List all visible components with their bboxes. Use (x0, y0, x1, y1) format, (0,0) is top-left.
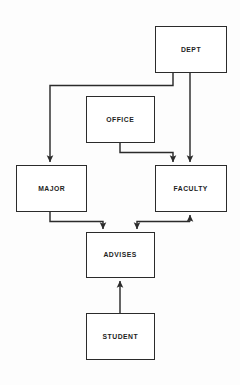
node-faculty-label: FACULTY (174, 185, 208, 192)
node-major-label: MAJOR (38, 185, 65, 192)
node-advises[interactable]: ADVISES (86, 232, 155, 278)
node-advises-label: ADVISES (104, 251, 137, 258)
node-student[interactable]: STUDENT (86, 313, 155, 360)
diagram-canvas: DEPT OFFICE MAJOR FACULTY ADVISES STUDEN… (0, 0, 240, 385)
node-dept-label: DEPT (181, 46, 201, 53)
node-office-label: OFFICE (107, 116, 135, 123)
node-dept[interactable]: DEPT (155, 26, 227, 73)
edge-major-to-advises (50, 212, 103, 229)
node-major[interactable]: MAJOR (16, 165, 87, 212)
edge-office-to-faculty (120, 143, 173, 162)
node-student-label: STUDENT (103, 333, 139, 340)
node-office[interactable]: OFFICE (86, 96, 155, 143)
edge-faculty-to-advises (137, 222, 190, 230)
node-faculty[interactable]: FACULTY (155, 165, 227, 212)
